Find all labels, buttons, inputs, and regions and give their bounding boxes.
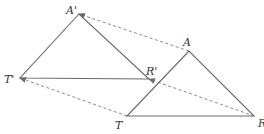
image-triangle bbox=[20, 14, 149, 79]
translation-vector-a-arrow bbox=[79, 14, 189, 51]
original-triangle bbox=[127, 51, 254, 116]
vertex-label-t: T bbox=[115, 119, 124, 132]
vertex-label-a: A bbox=[182, 36, 191, 49]
vertex-label-t-prime: T' bbox=[4, 73, 14, 86]
translation-vector-r-arrow bbox=[149, 79, 254, 116]
translation-vectors bbox=[20, 14, 254, 116]
vertex-label-r: R bbox=[257, 117, 264, 130]
original-triangle-outline bbox=[127, 51, 254, 116]
vertex-labels: ATRA'T'R' bbox=[4, 4, 264, 132]
translation-diagram: ATRA'T'R' bbox=[0, 0, 264, 134]
translation-vector-t-arrow bbox=[20, 78, 127, 116]
vertex-label-r-prime: R' bbox=[145, 65, 157, 78]
image-triangle-outline bbox=[20, 14, 149, 79]
vertex-label-a-prime: A' bbox=[65, 4, 77, 17]
